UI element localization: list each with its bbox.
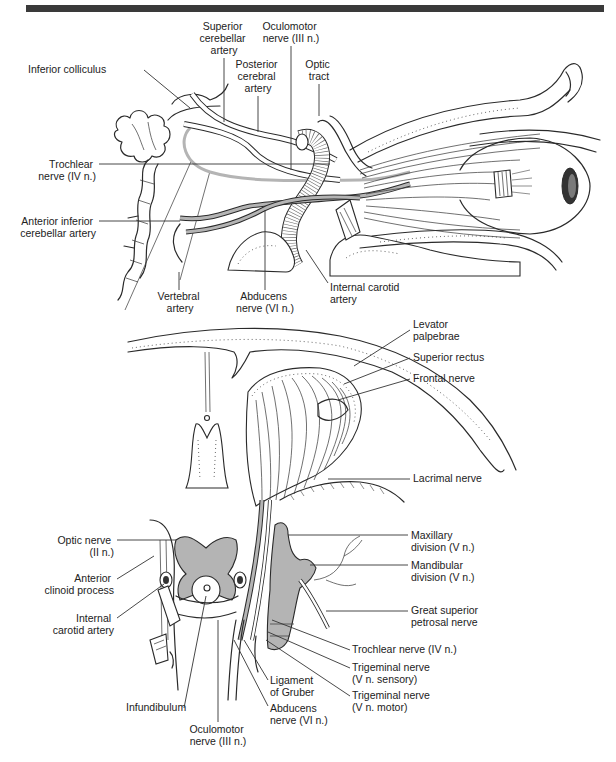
label-levator-palpebrae: Levator palpebrae (413, 318, 460, 342)
label-oculomotor-nerve-bottom: Oculomotor nerve (III n.) (189, 723, 246, 747)
label-superior-rectus: Superior rectus (413, 351, 484, 363)
label-posterior-cerebral-artery: Posterior cerebral artery (236, 58, 281, 94)
top-panel-drawing (115, 64, 600, 310)
label-internal-carotid-artery-bottom: Internal carotid artery (53, 612, 115, 636)
label-inferior-colliculus: Inferior colliculus (28, 63, 106, 75)
label-oculomotor-nerve-top: Oculomotor nerve (III n.) (262, 20, 319, 44)
label-abducens-nerve-bottom: Abducens nerve (VI n.) (270, 702, 328, 726)
label-mandibular-division: Mandibular division (V n.) (411, 559, 475, 583)
label-superior-cerebellar-artery: Superior cerebellar artery (199, 20, 248, 56)
label-maxillary-division: Maxillary division (V n.) (411, 529, 475, 553)
label-abducens-nerve-top: Abducens nerve (VI n.) (236, 290, 294, 314)
label-frontal-nerve: Frontal nerve (413, 372, 475, 384)
label-lacrimal-nerve: Lacrimal nerve (413, 472, 482, 484)
label-internal-carotid-artery-top: Internal carotid artery (330, 281, 402, 305)
label-ligament-of-gruber: Ligament of Gruber (270, 674, 316, 698)
label-infundibulum: Infundibulum (126, 701, 186, 713)
label-optic-tract: Optic tract (305, 58, 332, 82)
label-great-superior-petrosal-nerve: Great superior petrosal nerve (411, 604, 481, 628)
eyeball (460, 138, 590, 234)
label-trigeminal-sensory: Trigeminal nerve (V n. sensory) (352, 661, 433, 685)
label-trochlear-nerve-top: Trochlear nerve (IV n.) (38, 158, 96, 182)
label-trigeminal-motor: Trigeminal nerve (V n. motor) (352, 689, 433, 713)
header-bar (26, 5, 604, 12)
bottom-panel-drawing (128, 328, 516, 700)
label-anterior-inferior-cerebellar-artery: Anterior inferior cerebellar artery (20, 215, 97, 239)
label-vertebral-artery: Vertebral artery (158, 290, 203, 314)
label-trochlear-nerve-bottom: Trochlear nerve (IV n.) (352, 643, 457, 655)
label-anterior-clinoid-process: Anterior clinoid process (45, 572, 114, 596)
anatomy-figure: Superior cerebellar artery Oculomotor ne… (0, 0, 616, 762)
label-optic-nerve: Optic nerve (II n.) (57, 534, 114, 558)
